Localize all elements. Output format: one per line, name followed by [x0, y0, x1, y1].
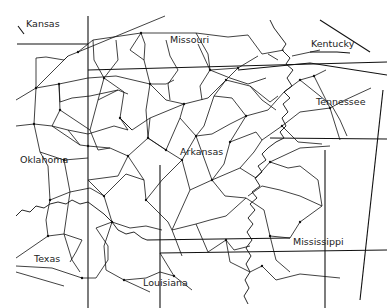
state-borders — [17, 16, 387, 308]
label-kentucky: Kentucky — [311, 39, 354, 49]
label-tennessee: Tennessee — [316, 97, 366, 107]
label-kansas: Kansas — [26, 19, 60, 29]
label-arkansas: Arkansas — [180, 147, 223, 157]
label-oklahoma: Oklahoma — [20, 155, 68, 165]
label-texas: Texas — [34, 254, 60, 264]
map-canvas: Kansas Missouri Kentucky Tennessee Oklah… — [0, 0, 387, 308]
label-missouri: Missouri — [170, 35, 209, 45]
label-mississippi: Mississippi — [293, 237, 344, 247]
label-louisiana: Louisiana — [143, 278, 188, 288]
red-river — [16, 200, 147, 240]
river — [244, 20, 293, 304]
